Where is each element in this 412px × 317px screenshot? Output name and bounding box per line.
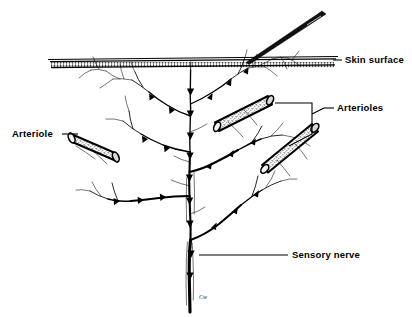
flow-arrowheads: [114, 67, 259, 280]
label-arteriole: Arteriole: [12, 128, 53, 139]
artist-signature: Cw: [199, 294, 207, 300]
sensory-nerve-tree: [76, 50, 310, 312]
skin-surface-line: [48, 57, 338, 68]
arteriole-lower-right: [259, 122, 320, 176]
anatomical-diagram: Skin surface Arterioles Arteriole Sensor…: [0, 0, 412, 317]
arteriole-upper-right: [212, 94, 275, 137]
label-arterioles: Arterioles: [337, 102, 383, 113]
label-skin-surface: Skin surface: [345, 54, 404, 65]
arteriole-left: [67, 132, 121, 164]
label-sensory-nerve: Sensory nerve: [292, 249, 360, 260]
